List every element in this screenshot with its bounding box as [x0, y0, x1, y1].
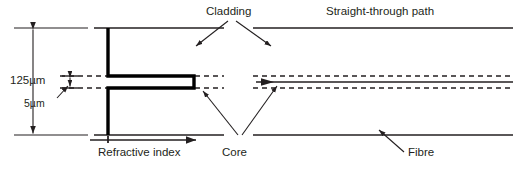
fibre-leader-lines — [379, 130, 404, 152]
label-core-diameter: 5µm — [24, 98, 45, 109]
refractive-index-axis — [90, 136, 196, 143]
label-cladding: Cladding — [206, 6, 251, 18]
diagram-canvas — [0, 0, 521, 170]
refractive-index-profile-curve — [108, 28, 194, 135]
label-straight-through-path: Straight-through path — [326, 6, 434, 18]
step-index-profile-path — [108, 28, 194, 135]
cladding-leader-left — [196, 21, 228, 46]
cladding-leader-right — [236, 21, 271, 46]
label-fibre: Fibre — [408, 147, 434, 159]
core-leader-right — [242, 86, 277, 135]
fibre-leader-line — [379, 130, 404, 152]
cladding-leader-lines — [196, 21, 271, 46]
straight-through-ray — [256, 78, 513, 86]
light-ray-arrowhead — [261, 78, 274, 86]
fibre-diagram-figure: Cladding Straight-through path 125µm 5µm… — [0, 0, 521, 170]
left-cladding-outline — [94, 28, 224, 135]
label-cladding-diameter: 125µm — [10, 75, 45, 87]
label-core: Core — [222, 147, 247, 159]
core-leader-lines — [203, 86, 277, 135]
core-diameter-dimension — [57, 76, 78, 98]
left-core-boundaries — [60, 76, 224, 88]
core-leader-left — [203, 91, 238, 135]
label-refractive-index: Refractive index — [98, 147, 180, 159]
